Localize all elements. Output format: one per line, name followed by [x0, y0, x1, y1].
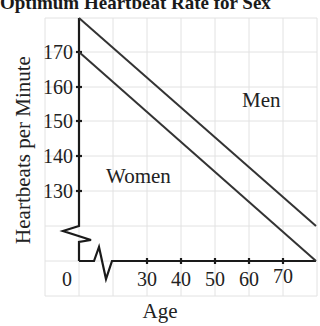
y-tick-130: 130: [43, 180, 73, 202]
x-tick-70: 70: [273, 265, 293, 287]
y-tick-150: 150: [43, 110, 73, 132]
y-tick-140: 140: [43, 145, 73, 167]
x-tick-0: 0: [62, 268, 72, 290]
grid: [45, 18, 317, 296]
y-axis-title: Heartbeats per Minute: [11, 56, 35, 244]
x-tick-60: 60: [239, 268, 259, 290]
men-label: Men: [242, 88, 281, 112]
men-line: [79, 18, 316, 226]
women-label: Women: [106, 164, 171, 188]
x-axis-title: Age: [143, 299, 178, 323]
y-tick-170: 170: [43, 41, 73, 63]
y-tick-160: 160: [43, 76, 73, 98]
chart-canvas: 170 160 150 140 130 0 30 40 50 60 70 Men…: [0, 0, 320, 326]
x-tick-50: 50: [205, 268, 225, 290]
x-tick-40: 40: [171, 268, 191, 290]
x-tick-30: 30: [137, 268, 157, 290]
